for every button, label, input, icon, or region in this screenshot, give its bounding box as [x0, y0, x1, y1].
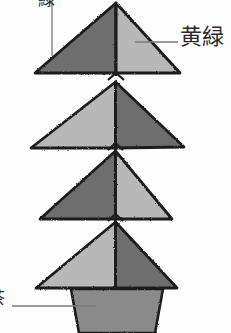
label-trunk: 茶 [0, 290, 5, 307]
figure-canvas: 緑 黄緑 茶 [0, 0, 231, 333]
tree-illustration [0, 0, 231, 333]
label-green: 緑 [38, 0, 55, 8]
label-yellow-green: 黄緑 [180, 26, 224, 48]
paper-grain [0, 0, 231, 333]
